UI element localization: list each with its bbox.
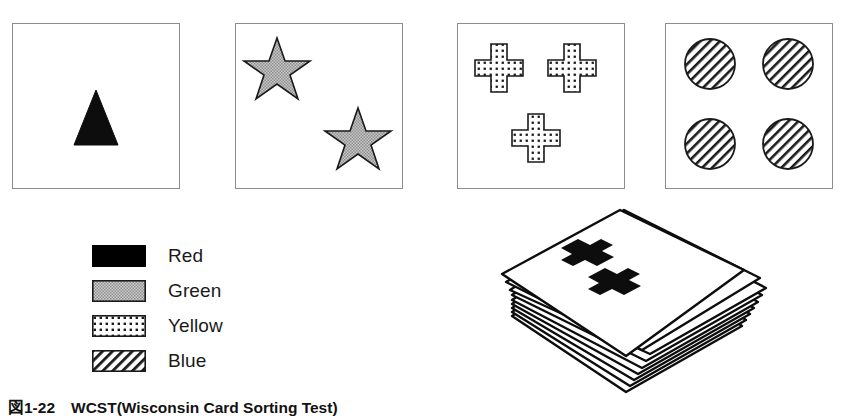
legend-label-yellow: Yellow (168, 316, 223, 335)
cross-shape-yellow-3 (512, 114, 560, 162)
response-card-deck[interactable] (440, 198, 840, 394)
circle-shape-blue-1 (685, 39, 735, 89)
legend-item-yellow: Yellow (92, 308, 292, 343)
legend-item-green: Green (92, 273, 292, 308)
star-shape-green-2 (325, 108, 391, 169)
legend-label-red: Red (168, 246, 203, 265)
cross-shape-yellow-1 (475, 44, 523, 92)
stimulus-card-1[interactable] (12, 23, 180, 189)
color-legend: Red Green (92, 238, 292, 378)
legend-label-green: Green (168, 281, 221, 300)
circle-shape-blue-4 (763, 119, 813, 169)
circle-shape-blue-2 (763, 39, 813, 89)
card-2-canvas (236, 24, 401, 187)
legend-item-blue: Blue (92, 343, 292, 378)
stimulus-card-4[interactable] (665, 23, 833, 189)
deck-card-stack (502, 210, 766, 392)
circle-shape-blue-3 (685, 119, 735, 169)
deck-canvas (440, 198, 840, 394)
legend-label-blue: Blue (168, 351, 206, 370)
figure-caption: 図1-22 WCST(Wisconsin Card Sorting Test) (8, 399, 338, 416)
card-4-canvas (666, 24, 831, 187)
legend-swatch-blue (92, 350, 146, 372)
star-shape-green-1 (244, 38, 310, 99)
legend-swatch-red (92, 245, 146, 267)
card-3-canvas (458, 24, 623, 187)
legend-item-red: Red (92, 238, 292, 273)
cross-shape-yellow-2 (548, 44, 596, 92)
stimulus-card-row (0, 0, 846, 200)
stimulus-card-3[interactable] (457, 23, 625, 189)
card-1-canvas (13, 24, 178, 187)
legend-swatch-yellow (92, 315, 146, 337)
stimulus-card-2[interactable] (235, 23, 403, 189)
legend-swatch-green (92, 280, 146, 302)
triangle-shape-red (74, 90, 118, 145)
